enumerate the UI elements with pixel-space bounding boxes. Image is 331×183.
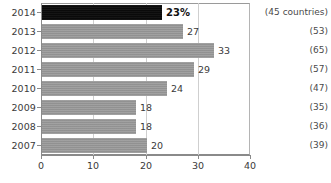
bar-row[interactable]: 200720(39) [0, 136, 331, 155]
y-axis-category-label: 2011 [0, 60, 36, 79]
bar-row[interactable]: 201233(65) [0, 41, 331, 60]
bar-row[interactable]: 201327(53) [0, 22, 331, 41]
bar[interactable] [42, 119, 136, 134]
bar-container[interactable] [42, 138, 147, 153]
bar-value-label: 33 [218, 41, 230, 60]
bar-value-label: 29 [198, 60, 210, 79]
bar-row[interactable]: 201129(57) [0, 60, 331, 79]
y-axis-category-label: 2014 [0, 3, 36, 22]
x-axis-tick [93, 155, 94, 159]
y-axis-category-label: 2012 [0, 41, 36, 60]
row-annotation-label: (47) [310, 79, 328, 98]
bar-container[interactable] [42, 62, 194, 77]
x-axis-tick [250, 155, 251, 159]
bar-value-label: 23% [166, 3, 190, 22]
y-axis-tick [37, 126, 41, 127]
y-axis-tick [37, 12, 41, 13]
bar[interactable] [42, 62, 194, 77]
y-axis-category-label: 2013 [0, 22, 36, 41]
y-axis-category-label: 2009 [0, 98, 36, 117]
y-axis-category-label: 2007 [0, 136, 36, 155]
bar[interactable] [42, 24, 183, 39]
bar-value-label: 27 [187, 22, 199, 41]
bar-container[interactable] [42, 43, 214, 58]
bar-container[interactable] [42, 24, 183, 39]
x-axis-tick-label: 40 [235, 160, 265, 171]
x-axis-tick-label: 0 [26, 160, 56, 171]
bar[interactable] [42, 43, 214, 58]
row-annotation-label: (39) [310, 136, 328, 155]
bar-container[interactable] [42, 81, 167, 96]
bar-rows-group: 201423%(45 countries)201327(53)201233(65… [0, 3, 331, 155]
bar[interactable] [42, 138, 147, 153]
y-axis-category-label: 2008 [0, 117, 36, 136]
row-annotation-label: (35) [310, 98, 328, 117]
y-axis-category-label: 2010 [0, 79, 36, 98]
bar-container[interactable] [42, 119, 136, 134]
bar-highlighted[interactable] [42, 5, 162, 20]
x-axis-tick-label: 30 [183, 160, 213, 171]
row-annotation-label: (45 countries) [265, 3, 328, 22]
bar-container[interactable] [42, 5, 162, 20]
x-axis-tick [198, 155, 199, 159]
bar-value-label: 24 [171, 79, 183, 98]
bar-value-label: 18 [140, 98, 152, 117]
row-annotation-label: (36) [310, 117, 328, 136]
x-axis-tick [41, 155, 42, 159]
bar[interactable] [42, 100, 136, 115]
y-axis-tick [37, 69, 41, 70]
y-axis-tick [37, 145, 41, 146]
x-axis-tick [146, 155, 147, 159]
x-axis-tick-label: 10 [78, 160, 108, 171]
bar-row[interactable]: 201024(47) [0, 79, 331, 98]
row-annotation-label: (53) [310, 22, 328, 41]
bar-row[interactable]: 200918(35) [0, 98, 331, 117]
bar-value-label: 20 [151, 136, 163, 155]
y-axis-tick [37, 88, 41, 89]
row-annotation-label: (57) [310, 60, 328, 79]
y-axis-tick [37, 107, 41, 108]
bar[interactable] [42, 81, 167, 96]
bar-container[interactable] [42, 100, 136, 115]
x-axis-tick-label: 20 [131, 160, 161, 171]
y-axis-tick [37, 50, 41, 51]
y-axis-tick [37, 31, 41, 32]
bar-row[interactable]: 200818(36) [0, 117, 331, 136]
row-annotation-label: (65) [310, 41, 328, 60]
bar-value-label: 18 [140, 117, 152, 136]
bar-row[interactable]: 201423%(45 countries) [0, 3, 331, 22]
bar-chart-figure: 201423%(45 countries)201327(53)201233(65… [0, 0, 331, 183]
